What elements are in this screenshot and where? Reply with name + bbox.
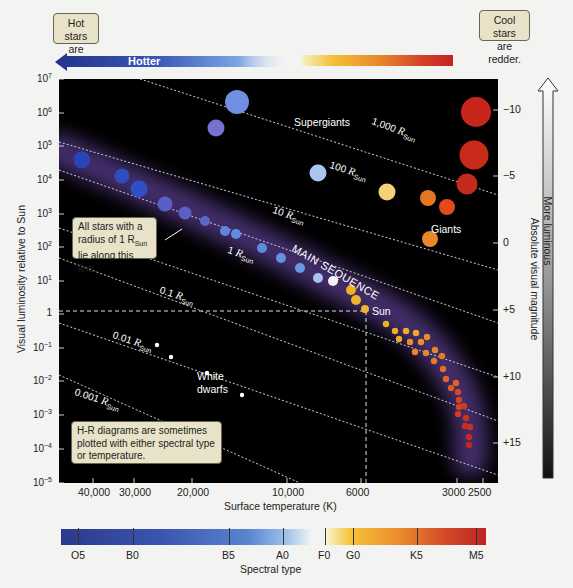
y-tick-label: 104 <box>18 173 52 185</box>
radius-callout-note: All stars with a radius of 1 RSun lie al… <box>72 217 157 259</box>
spectral-tick <box>417 528 418 545</box>
star-point <box>467 424 473 430</box>
y-tick-label: 107 <box>18 72 52 84</box>
star-point <box>457 174 478 195</box>
spectral-tick <box>229 528 230 545</box>
star-point <box>455 389 461 395</box>
star-point <box>361 305 369 313</box>
star-point <box>448 385 454 391</box>
callout-pointer <box>165 229 182 240</box>
star-point <box>456 397 462 403</box>
spectral-type-tick-label: B5 <box>222 549 235 561</box>
main-sequence-band <box>59 150 471 460</box>
star-point <box>412 349 418 355</box>
star-point <box>439 353 445 359</box>
cooler-gradient-bar <box>302 55 453 66</box>
sun-label: Sun <box>372 305 391 317</box>
star-point <box>413 330 419 336</box>
spectral-type-tick-label: B0 <box>126 549 139 561</box>
star-point <box>461 403 467 409</box>
y-tick-label: 101 <box>18 274 52 286</box>
spectral-type-tick-label: O5 <box>71 549 85 561</box>
hotter-arrow-icon <box>55 53 285 71</box>
star-point <box>155 343 159 347</box>
hotter-label: Hotter <box>128 55 160 67</box>
star-point <box>158 197 173 212</box>
star-point <box>379 184 396 201</box>
star-point <box>424 334 430 340</box>
magnitude-tick-label: −10 <box>503 103 521 115</box>
star-point <box>74 152 91 169</box>
y-tick-label: 10−2 <box>18 374 52 386</box>
more-luminous-label: More luminous <box>542 151 554 311</box>
star-point <box>439 199 455 215</box>
star-point <box>418 339 424 345</box>
hot-stars-note: Hot stars are bluer. <box>53 13 99 44</box>
star-point <box>200 216 210 226</box>
star-point <box>240 393 244 397</box>
star-point <box>443 376 449 382</box>
star-point <box>461 97 491 127</box>
star-point <box>351 295 361 305</box>
magnitude-tick-label: +10 <box>503 370 521 382</box>
spectral-tick <box>353 528 354 545</box>
y-tick-label: 1 <box>18 307 52 318</box>
white-dwarfs-label-line2: dwarfs <box>197 383 228 395</box>
star-point <box>455 411 461 417</box>
star-point <box>463 415 469 421</box>
y-tick-label: 10−4 <box>18 442 52 454</box>
star-point <box>295 263 305 273</box>
star-point <box>225 90 249 114</box>
star-point <box>313 273 323 283</box>
x-tick-label: 20,000 <box>177 486 209 498</box>
star-point <box>440 366 446 372</box>
y-tick-label: 10−5 <box>18 476 52 488</box>
magnitude-tick-label: +5 <box>503 303 515 315</box>
star-point <box>383 321 389 327</box>
y-tick-label: 105 <box>18 139 52 151</box>
x-tick-label: 3000 <box>442 486 465 498</box>
star-point <box>431 358 437 364</box>
y-tick-label: 102 <box>18 240 52 252</box>
star-point <box>407 339 413 345</box>
star-point <box>423 350 429 356</box>
star-point <box>115 169 130 184</box>
star-point <box>453 380 459 386</box>
spectral-tick <box>78 528 79 545</box>
star-point <box>310 165 327 182</box>
spectral-tick <box>325 528 326 545</box>
hr-diagram-plot: Supergiants Giants MAIN SEQUENCE Sun Whi… <box>59 79 498 483</box>
x-tick-label: 10,000 <box>272 486 304 498</box>
star-point <box>392 328 398 334</box>
hr-diagram-note: H-R diagrams are sometimes plotted with … <box>71 421 222 464</box>
star-point <box>276 253 286 263</box>
x-tick-label: 40,000 <box>78 486 110 498</box>
spectral-tick <box>283 528 284 545</box>
white-dwarfs-label-line1: White <box>197 370 224 382</box>
spectral-type-label: Spectral type <box>240 563 301 575</box>
y-tick-label: 103 <box>18 207 52 219</box>
magnitude-tick-label: −5 <box>503 169 515 181</box>
star-point <box>179 207 192 220</box>
star-point <box>420 190 436 206</box>
star-point <box>466 434 472 440</box>
supergiants-label: Supergiants <box>294 116 350 128</box>
spectral-type-tick-label: M5 <box>469 549 484 561</box>
y-tick-label: 106 <box>18 106 52 118</box>
magnitude-tick-label: 0 <box>503 236 509 248</box>
y-tick-label: 10−3 <box>18 408 52 420</box>
star-point <box>231 229 241 239</box>
spectral-type-tick-label: K5 <box>410 549 423 561</box>
star-point <box>403 328 409 334</box>
star-point <box>131 181 148 198</box>
spectral-tick <box>133 528 134 545</box>
magnitude-tick-label: +15 <box>503 436 521 448</box>
spectral-bar-hot <box>61 529 311 545</box>
star-point <box>432 347 438 353</box>
star-point <box>460 141 489 170</box>
spectral-tick <box>476 528 477 545</box>
star-point <box>396 336 402 342</box>
cool-stars-note: Cool stars are redder. <box>479 10 530 41</box>
y-tick-label: 10−1 <box>18 341 52 353</box>
star-point <box>169 355 173 359</box>
